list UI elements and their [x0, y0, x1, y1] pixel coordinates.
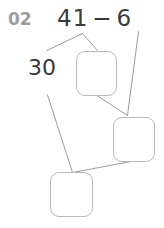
- connector-box1-to-box2: [97, 96, 128, 116]
- equation-expression: 41−6: [57, 6, 132, 31]
- equation-right-operand: 6: [117, 6, 133, 31]
- connector-minuend-to-box2: [128, 32, 139, 116]
- connector-box2-to-box3: [73, 162, 132, 173]
- answer-box-3[interactable]: [50, 172, 93, 217]
- problem-number-label: 02: [8, 11, 32, 28]
- answer-box-1[interactable]: [76, 51, 117, 96]
- connector-split-left-branch: [47, 34, 83, 51]
- worksheet-problem: 02 41−6 30: [0, 0, 164, 228]
- decomposition-number: 30: [28, 57, 56, 79]
- answer-box-2[interactable]: [113, 117, 155, 162]
- connector-split-right-branch: [83, 34, 98, 51]
- equation-operator: −: [88, 6, 116, 31]
- equation-left-operand: 41: [57, 6, 88, 31]
- connector-decomp-to-box3: [48, 95, 73, 173]
